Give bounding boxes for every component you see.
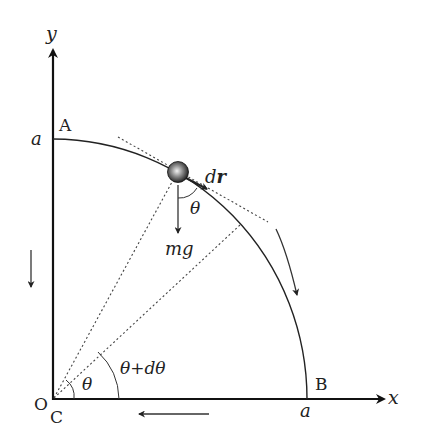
angle-arc-theta-ball bbox=[178, 188, 197, 198]
ball bbox=[168, 162, 189, 183]
arc-motion-diagram: y x O C A B a a dr mg θ θ θ+dθ bbox=[0, 0, 432, 443]
y-axis-label: y bbox=[45, 22, 57, 44]
x-axis-label: x bbox=[388, 386, 399, 408]
a-on-x-axis-label: a bbox=[300, 400, 311, 421]
angle-arc-theta-center bbox=[66, 380, 74, 399]
theta-ball-label: θ bbox=[190, 198, 200, 218]
point-b-label: B bbox=[315, 374, 328, 394]
angle-arc-theta-dtheta-center bbox=[98, 352, 119, 399]
motion-direction-arrow-arc bbox=[276, 229, 297, 295]
theta-plus-dtheta-label: θ+dθ bbox=[120, 358, 166, 378]
displacement-vector bbox=[186, 178, 207, 189]
origin-label: O bbox=[34, 394, 48, 414]
displacement-r: r bbox=[217, 166, 228, 187]
center-label: C bbox=[50, 407, 63, 427]
gravity-label: mg bbox=[165, 238, 194, 259]
point-a-label: A bbox=[58, 115, 72, 135]
a-on-y-axis-label: a bbox=[31, 128, 42, 149]
displacement-label: dr bbox=[205, 166, 228, 187]
axes bbox=[52, 50, 384, 400]
theta-center-label: θ bbox=[82, 374, 92, 394]
displacement-d: d bbox=[205, 166, 217, 187]
